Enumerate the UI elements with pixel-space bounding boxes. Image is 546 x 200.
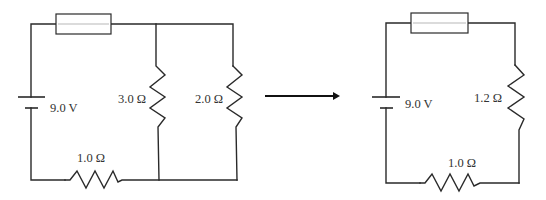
right-top-wire: [386, 23, 411, 97]
right-equivalent-resistor-label: 1.2 Ω: [474, 91, 502, 105]
right-battery-label: 9.0 V: [405, 97, 433, 111]
left-parallel-resistor-1-label: 3.0 Ω: [118, 92, 146, 106]
left-top-wire: [31, 24, 56, 97]
right-series-resistor-icon: [420, 174, 519, 191]
left-parallel-resistor-2-label: 2.0 Ω: [195, 92, 223, 106]
left-top-wire-right: [111, 24, 233, 66]
left-circuit: 9.0 V 1.0 Ω 3.0 Ω 2.0 Ω: [18, 14, 242, 188]
left-parallel-resistor-2-icon: [227, 66, 242, 180]
right-equivalent-resistor-icon: [508, 65, 524, 183]
right-series-resistor-label: 1.0 Ω: [448, 156, 476, 170]
left-fuse: [56, 14, 111, 34]
left-series-resistor-icon: [65, 171, 237, 188]
left-parallel-resistor-1-icon: [150, 24, 165, 180]
left-series-resistor-label: 1.0 Ω: [77, 151, 105, 165]
left-battery-label: 9.0 V: [50, 101, 78, 115]
right-fuse: [411, 13, 468, 33]
circuit-diagram: 9.0 V 1.0 Ω 3.0 Ω 2.0 Ω 9.0 V 1.2 Ω: [0, 0, 546, 200]
right-circuit: 9.0 V 1.2 Ω 1.0 Ω: [372, 13, 524, 191]
right-top-wire-right: [468, 23, 515, 65]
